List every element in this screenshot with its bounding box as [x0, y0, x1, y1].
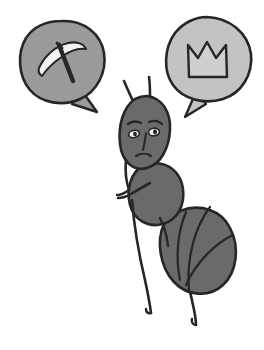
- ant-pupil-right: [153, 130, 157, 135]
- ant-pupil-left: [133, 132, 137, 137]
- ant-illustration-svg: [0, 0, 264, 350]
- ant-thorax-shape: [129, 163, 184, 225]
- ant-antenna-right: [149, 77, 150, 98]
- ant-head: [120, 96, 171, 169]
- ant-thorax: [129, 163, 184, 225]
- illustration-canvas: A grey cartoon ant with a sad face stand…: [0, 0, 264, 350]
- bubble-left-body: [20, 21, 105, 103]
- ant-head-shape: [120, 96, 171, 169]
